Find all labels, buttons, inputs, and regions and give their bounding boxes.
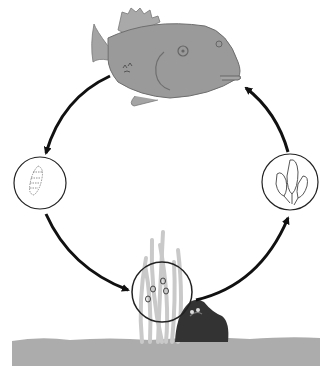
arrow-adult-to-larva	[46, 76, 110, 153]
juveniles-stage	[262, 154, 318, 210]
adult-fish	[92, 8, 241, 106]
arrow-eggs-to-juveniles	[196, 218, 288, 300]
life-cycle-diagram	[0, 0, 330, 372]
seagrass	[141, 232, 181, 342]
arrow-juveniles-to-adult	[246, 88, 288, 152]
rock	[175, 300, 228, 342]
arrow-larva-to-eggs	[46, 214, 128, 290]
diagram-canvas	[0, 0, 330, 372]
cycle-arrows	[46, 76, 288, 300]
larva-stage	[14, 157, 66, 209]
